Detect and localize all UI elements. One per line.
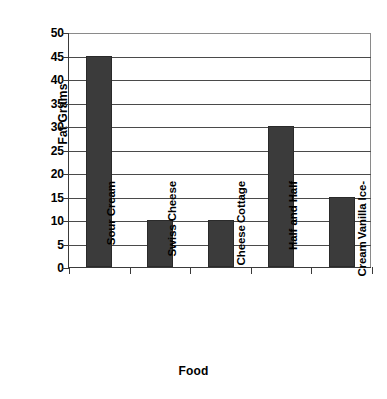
y-tick-mark xyxy=(62,104,69,105)
y-tick-mark xyxy=(62,221,69,222)
y-axis-tick-label: 35 xyxy=(32,98,64,110)
bar xyxy=(208,220,234,267)
y-tick-mark xyxy=(62,174,69,175)
x-axis-category-label: Half and Half xyxy=(287,180,317,272)
x-axis-label-line: Vanilla Ice- xyxy=(356,180,369,240)
x-axis-label-line: Half and Half xyxy=(287,180,300,251)
x-axis-category-label: Swiss Cheese xyxy=(166,180,196,272)
bar-chart: Fat Grams 05101520253035404550 Sour Crea… xyxy=(0,0,387,399)
y-tick-mark xyxy=(62,80,69,81)
x-axis-category-label: CottageCheese xyxy=(235,180,265,272)
y-axis-tick-label: 20 xyxy=(32,168,64,180)
x-axis-label-line: Swiss Cheese xyxy=(166,180,179,258)
y-tick-mark xyxy=(62,245,69,246)
x-axis-category-labels: Sour CreamSwiss CheeseCottageCheeseHalf … xyxy=(68,272,371,364)
y-axis-tick-label: 15 xyxy=(32,192,64,204)
y-axis-tick-label: 5 xyxy=(32,239,64,251)
y-axis-tick-label: 40 xyxy=(32,74,64,86)
bar xyxy=(329,197,355,268)
y-tick-mark xyxy=(62,127,69,128)
y-tick-mark xyxy=(62,198,69,199)
y-tick-mark xyxy=(62,33,69,34)
y-axis-tick-label: 45 xyxy=(32,51,64,63)
y-tick-mark xyxy=(62,268,69,269)
x-axis-category-label: Vanilla Ice-Cream xyxy=(356,180,386,272)
y-axis-tick-labels: 05101520253035404550 xyxy=(32,33,64,268)
y-tick-mark xyxy=(62,57,69,58)
x-axis-label-line: Cheese xyxy=(235,224,248,266)
y-axis-tick-label: 30 xyxy=(32,121,64,133)
x-axis-label-line: Sour Cream xyxy=(105,180,118,246)
x-axis-label-line: Cream xyxy=(356,240,369,277)
x-axis-label-line: Cottage xyxy=(235,180,248,224)
x-axis-title: Food xyxy=(0,364,387,378)
y-axis-tick-label: 0 xyxy=(32,262,64,274)
y-axis-tick-label: 50 xyxy=(32,27,64,39)
y-axis-tick-label: 10 xyxy=(32,215,64,227)
y-axis-tick-label: 25 xyxy=(32,145,64,157)
x-axis-category-label: Sour Cream xyxy=(105,180,135,272)
y-tick-mark xyxy=(62,151,69,152)
